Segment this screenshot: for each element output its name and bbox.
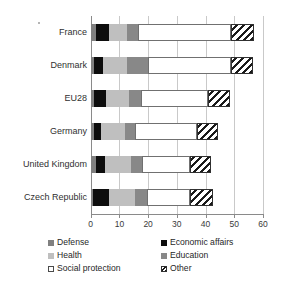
x-axis-line xyxy=(91,214,263,215)
bar-segment-economic-affairs[interactable] xyxy=(96,24,109,41)
category-label: Germany xyxy=(1,126,87,137)
health-swatch xyxy=(48,253,54,259)
category-label: EU28 xyxy=(1,93,87,104)
gridline-40 xyxy=(206,16,207,214)
legend-item[interactable]: Defense xyxy=(48,236,121,249)
bar-segment-social-protection[interactable] xyxy=(141,90,208,107)
social-protection-swatch xyxy=(48,266,54,272)
education-swatch xyxy=(161,253,167,259)
bar-segment-health[interactable] xyxy=(109,189,135,206)
x-tick-label: 60 xyxy=(258,219,267,229)
legend-label: Economic affairs xyxy=(170,237,233,248)
economic-affairs-swatch xyxy=(161,240,167,246)
x-tick-label: 0 xyxy=(88,219,93,229)
bar-segment-health[interactable] xyxy=(103,57,127,74)
category-label: France xyxy=(1,27,87,38)
bar-segment-health[interactable] xyxy=(109,24,127,41)
defense-swatch xyxy=(48,240,54,246)
category-label: United Kingdom xyxy=(1,159,87,170)
bar-segment-social-protection[interactable] xyxy=(142,156,190,173)
bar-segment-other[interactable] xyxy=(231,57,253,74)
gridline-0 xyxy=(91,16,92,214)
gridline-10 xyxy=(119,16,120,214)
bar-segment-social-protection[interactable] xyxy=(147,189,190,206)
bar-segment-education[interactable] xyxy=(127,57,149,74)
legend-item[interactable]: Health xyxy=(48,249,121,262)
legend-item[interactable]: Other xyxy=(161,262,233,275)
bar-segment-health[interactable] xyxy=(105,156,131,173)
bar-segment-other[interactable] xyxy=(197,123,219,140)
legend-label: Other xyxy=(170,263,192,274)
bar-segment-other[interactable] xyxy=(190,189,213,206)
x-tick-label: 20 xyxy=(143,219,152,229)
plot-area: 0102030405060 xyxy=(91,16,263,214)
legend-column-left: DefenseHealthSocial protection xyxy=(48,236,121,275)
other-swatch xyxy=(161,266,167,272)
gridline-20 xyxy=(148,16,149,214)
bar-segment-social-protection[interactable] xyxy=(148,57,231,74)
bar-segment-health[interactable] xyxy=(101,123,125,140)
x-tick-label: 10 xyxy=(115,219,124,229)
x-tick-label: 30 xyxy=(172,219,181,229)
gridline-50 xyxy=(234,16,235,214)
category-axis-labels: FranceDenmarkEU28GermanyUnited KingdomCz… xyxy=(0,16,87,214)
category-label: Denmark xyxy=(1,60,87,71)
legend-item[interactable]: Education xyxy=(161,249,233,262)
chart-legend: DefenseHealthSocial protection Economic … xyxy=(48,236,248,278)
legend-item[interactable]: Economic affairs xyxy=(161,236,233,249)
bar-segment-other[interactable] xyxy=(231,24,254,41)
x-tick-label: 50 xyxy=(230,219,239,229)
bar-segment-economic-affairs[interactable] xyxy=(96,156,105,173)
legend-item[interactable]: Social protection xyxy=(48,262,121,275)
bar-segment-education[interactable] xyxy=(135,189,146,206)
legend-label: Defense xyxy=(57,237,89,248)
x-tick-label: 40 xyxy=(201,219,210,229)
bar-segment-economic-affairs[interactable] xyxy=(94,90,105,107)
bar-segment-social-protection[interactable] xyxy=(135,123,196,140)
legend-label: Education xyxy=(170,250,208,261)
bar-segment-education[interactable] xyxy=(125,123,135,140)
category-label: Czech Republic xyxy=(1,192,87,203)
bar-segment-economic-affairs[interactable] xyxy=(94,123,101,140)
bar-segment-economic-affairs[interactable] xyxy=(93,189,109,206)
chart-page: FranceDenmarkEU28GermanyUnited KingdomCz… xyxy=(0,0,290,285)
legend-label: Health xyxy=(57,250,82,261)
gridline-60 xyxy=(263,16,264,214)
bar-segment-economic-affairs[interactable] xyxy=(94,57,103,74)
bar-segment-health[interactable] xyxy=(106,90,129,107)
tick-60 xyxy=(263,214,264,218)
bar-segment-education[interactable] xyxy=(127,24,138,41)
bar-segment-education[interactable] xyxy=(129,90,141,107)
legend-column-right: Economic affairsEducationOther xyxy=(161,236,233,275)
bar-segment-social-protection[interactable] xyxy=(138,24,231,41)
bar-segment-other[interactable] xyxy=(208,90,230,107)
bar-segment-education[interactable] xyxy=(131,156,142,173)
gridline-30 xyxy=(177,16,178,214)
legend-label: Social protection xyxy=(57,263,121,274)
bar-segment-other[interactable] xyxy=(190,156,212,173)
